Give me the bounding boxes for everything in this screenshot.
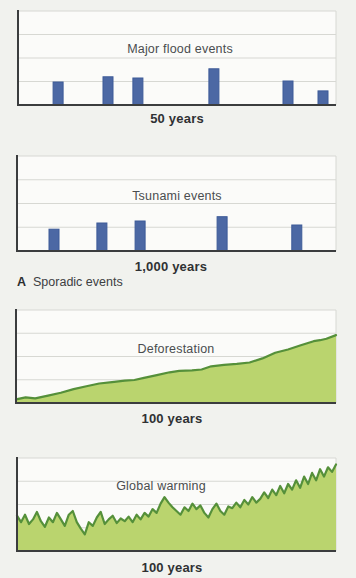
chart-3-plot xyxy=(15,309,336,403)
chart-4-plot xyxy=(16,457,336,551)
chart-1-plot xyxy=(17,10,336,105)
event-bar xyxy=(135,221,145,251)
event-bar xyxy=(318,91,328,105)
x-axis-label-100-years-deforestation: 100 years xyxy=(141,411,202,426)
event-bar xyxy=(103,77,113,105)
event-bar xyxy=(217,217,227,251)
x-axis-label-100-years-global-warming: 100 years xyxy=(141,560,202,575)
event-bar xyxy=(49,229,59,251)
event-bar xyxy=(209,69,219,105)
caption-a-sporadic-events: ASporadic events xyxy=(17,275,123,289)
event-bar xyxy=(283,81,293,105)
chart-title-deforestation: Deforestation xyxy=(138,342,215,356)
event-bar xyxy=(53,82,63,105)
caption-text: Sporadic events xyxy=(33,275,123,289)
chart-title-tsunami-events: Tsunami events xyxy=(132,189,222,203)
chart-title-major-flood-events: Major flood events xyxy=(127,42,233,56)
event-bar xyxy=(97,223,107,251)
caption-letter: A xyxy=(17,275,26,289)
x-axis-label-50-years: 50 years xyxy=(150,111,204,126)
x-axis-label-1000-years: 1,000 years xyxy=(135,259,207,274)
event-bar xyxy=(133,78,143,105)
event-bar xyxy=(292,225,302,251)
chart-title-global-warming: Global warming xyxy=(116,479,206,493)
chart-2-plot xyxy=(16,155,336,251)
figure-page: Major flood events 50 years Tsunami even… xyxy=(0,0,356,578)
